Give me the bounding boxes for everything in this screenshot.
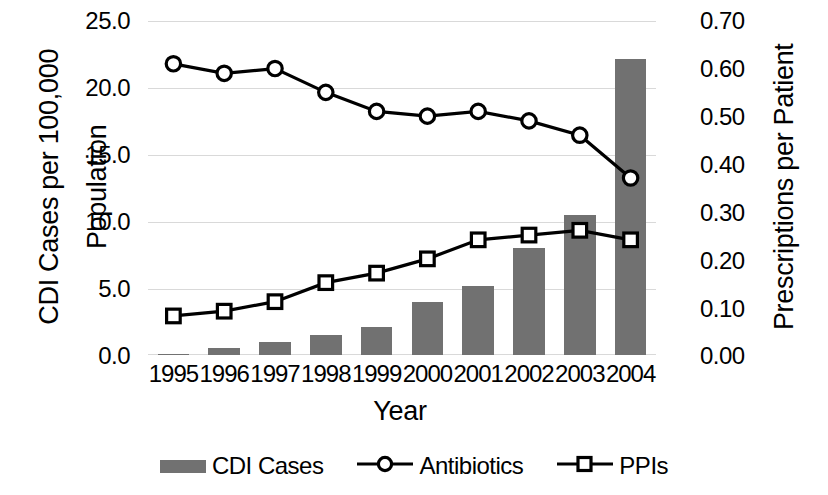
y-tick-right-040: 0.40 (700, 151, 810, 179)
y-tick-right-000: 0.00 (700, 342, 810, 370)
marker-antibiotics-2004 (623, 171, 637, 185)
marker-antibiotics-1997 (268, 61, 282, 75)
y-tick-right-010: 0.10 (700, 295, 810, 323)
plot-area (148, 21, 656, 355)
x-tick-2003: 2003 (554, 360, 605, 388)
x-tick-2002: 2002 (504, 360, 555, 388)
marker-antibiotics-2003 (573, 128, 587, 142)
x-axis-title: Year (150, 396, 650, 427)
x-tick-2004: 2004 (605, 360, 656, 388)
legend-label-cdi-cases: CDI Cases (212, 452, 324, 480)
marker-ppis-2000 (421, 252, 435, 266)
y-axis-left-title-line2: Population (84, 17, 112, 357)
bar-swatch-icon (160, 460, 206, 473)
marker-antibiotics-1996 (217, 66, 231, 80)
y-tick-left-0: 0.0 (20, 342, 130, 370)
y-tick-right-020: 0.20 (700, 247, 810, 275)
marker-ppis-1997 (268, 295, 282, 309)
x-tick-1995: 1995 (148, 360, 199, 388)
legend-item-cdi-cases[interactable]: CDI Cases (160, 452, 324, 480)
marker-antibiotics-2002 (522, 114, 536, 128)
marker-ppis-1995 (167, 309, 181, 323)
y-tick-right-030: 0.30 (700, 199, 810, 227)
x-tick-1996: 1996 (199, 360, 250, 388)
marker-ppis-1996 (217, 304, 231, 318)
square-marker-icon (557, 452, 613, 480)
legend-item-antibiotics[interactable]: Antibiotics (357, 452, 523, 480)
marker-antibiotics-1995 (166, 57, 180, 71)
line-series (148, 21, 656, 355)
line-ppis (173, 230, 630, 316)
chart-figure: CDI Cases per 100,000 Population Prescri… (0, 0, 828, 495)
x-tick-1997: 1997 (250, 360, 301, 388)
marker-ppis-2003 (573, 224, 587, 238)
legend-item-ppis[interactable]: PPIs (557, 452, 668, 480)
marker-antibiotics-2000 (420, 109, 434, 123)
legend-label-antibiotics: Antibiotics (419, 452, 523, 480)
y-tick-left-20: 20.0 (20, 74, 130, 102)
legend-label-ppis: PPIs (619, 452, 668, 480)
y-tick-right-060: 0.60 (700, 55, 810, 83)
marker-antibiotics-2001 (471, 104, 485, 118)
x-tick-1999: 1999 (351, 360, 402, 388)
y-tick-right-070: 0.70 (700, 7, 810, 35)
chart-legend: CDI Cases Antibiotics PPIs (0, 452, 828, 480)
circle-marker-icon (357, 452, 413, 480)
y-axis-left-title-line1: CDI Cases per 100,000 (36, 17, 64, 357)
marker-ppis-2002 (522, 228, 536, 242)
line-antibiotics (173, 64, 630, 178)
marker-ppis-1998 (319, 276, 333, 290)
y-tick-right-050: 0.50 (700, 103, 810, 131)
x-tick-2000: 2000 (402, 360, 453, 388)
marker-ppis-2001 (471, 233, 485, 247)
y-tick-left-10: 10.0 (20, 208, 130, 236)
x-tick-1998: 1998 (300, 360, 351, 388)
y-tick-left-15: 15.0 (20, 141, 130, 169)
marker-antibiotics-1998 (319, 85, 333, 99)
y-tick-left-25: 25.0 (20, 7, 130, 35)
y-tick-left-5: 5.0 (20, 275, 130, 303)
marker-ppis-1999 (370, 266, 384, 280)
marker-antibiotics-1999 (369, 104, 383, 118)
marker-ppis-2004 (624, 233, 638, 247)
x-tick-2001: 2001 (453, 360, 504, 388)
